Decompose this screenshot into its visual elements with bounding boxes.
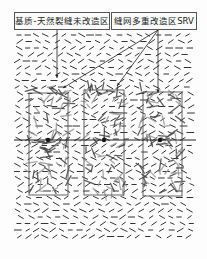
fracture-network-diagram bbox=[0, 0, 207, 259]
srv-zone-label: 缝网多重改造区SRV bbox=[111, 12, 197, 30]
matrix-unstimulated-zone-label: 基质-天然裂缝未改造区 bbox=[14, 12, 110, 30]
